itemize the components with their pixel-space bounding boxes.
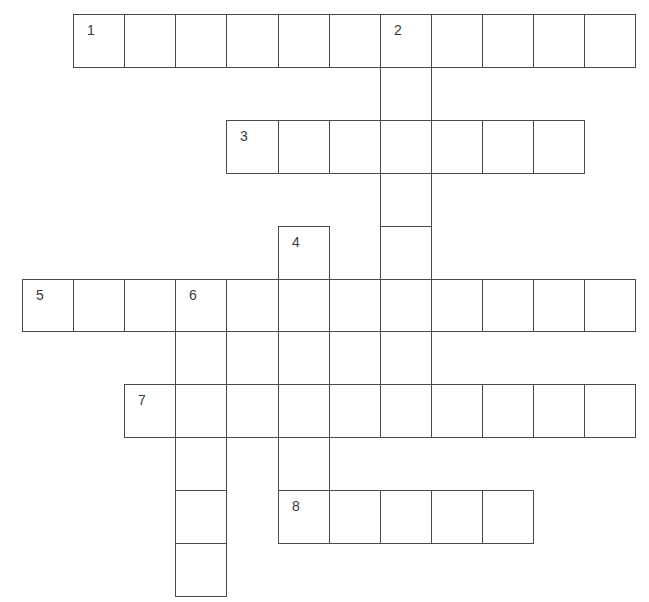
crossword-cell[interactable] — [380, 490, 432, 544]
crossword-cell[interactable] — [329, 384, 381, 438]
crossword-cell[interactable] — [380, 173, 432, 227]
crossword-cell[interactable] — [482, 279, 534, 332]
clue-number: 6 — [189, 288, 197, 302]
crossword-cell[interactable] — [380, 279, 432, 332]
clue-number: 1 — [87, 23, 95, 37]
crossword-cell[interactable] — [278, 331, 330, 385]
crossword-cell[interactable] — [175, 437, 227, 491]
crossword-cell[interactable]: 8 — [278, 490, 330, 544]
crossword-cell[interactable] — [380, 384, 432, 438]
crossword-cell[interactable] — [329, 490, 381, 544]
clue-number: 7 — [138, 393, 146, 407]
crossword-cell[interactable] — [533, 384, 585, 438]
crossword-cell[interactable] — [482, 490, 534, 544]
crossword-cell[interactable] — [329, 120, 381, 174]
crossword-cell[interactable]: 1 — [73, 14, 125, 68]
clue-number: 4 — [292, 235, 300, 249]
crossword-cell[interactable] — [175, 14, 227, 68]
crossword-cell[interactable] — [175, 543, 227, 597]
crossword-cell[interactable] — [329, 331, 381, 385]
crossword-cell[interactable] — [584, 14, 636, 68]
crossword-cell[interactable] — [533, 14, 585, 68]
crossword-cell[interactable] — [73, 279, 125, 332]
crossword-cell[interactable] — [278, 120, 330, 174]
crossword-cell[interactable] — [380, 67, 432, 121]
crossword-cell[interactable] — [482, 14, 534, 68]
crossword-cell[interactable] — [226, 384, 279, 438]
crossword-cell[interactable] — [431, 490, 483, 544]
crossword-cell[interactable] — [584, 279, 636, 332]
crossword-cell[interactable] — [431, 279, 483, 332]
crossword-cell[interactable] — [431, 384, 483, 438]
crossword-cell[interactable] — [431, 120, 483, 174]
crossword-cell[interactable]: 3 — [226, 120, 279, 174]
crossword-cell[interactable]: 4 — [278, 226, 330, 280]
crossword-cell[interactable] — [380, 226, 432, 280]
crossword-cell[interactable] — [584, 384, 636, 438]
crossword-cell[interactable] — [431, 14, 483, 68]
clue-number: 8 — [292, 499, 300, 513]
crossword-cell[interactable] — [175, 490, 227, 544]
crossword-cell[interactable]: 5 — [22, 279, 74, 332]
crossword-cell[interactable] — [278, 279, 330, 332]
crossword-cell[interactable] — [226, 331, 279, 385]
crossword-cell[interactable] — [278, 14, 330, 68]
crossword-cell[interactable] — [278, 384, 330, 438]
crossword-cell[interactable] — [278, 437, 330, 491]
crossword-cell[interactable] — [175, 331, 227, 385]
crossword-cell[interactable] — [226, 279, 279, 332]
crossword-cell[interactable] — [533, 279, 585, 332]
crossword-cell[interactable] — [124, 279, 176, 332]
crossword-cell[interactable] — [482, 120, 534, 174]
crossword-grid: 12345678 — [0, 0, 649, 602]
crossword-cell[interactable] — [226, 14, 279, 68]
clue-number: 3 — [240, 129, 248, 143]
crossword-cell[interactable] — [380, 120, 432, 174]
crossword-cell[interactable] — [329, 279, 381, 332]
clue-number: 5 — [36, 288, 44, 302]
crossword-cell[interactable] — [482, 384, 534, 438]
crossword-cell[interactable] — [533, 120, 585, 174]
clue-number: 2 — [394, 23, 402, 37]
crossword-cell[interactable] — [175, 384, 227, 438]
crossword-cell[interactable]: 7 — [124, 384, 176, 438]
crossword-cell[interactable]: 2 — [380, 14, 432, 68]
crossword-cell[interactable] — [329, 14, 381, 68]
crossword-cell[interactable] — [380, 331, 432, 385]
crossword-cell[interactable] — [124, 14, 176, 68]
crossword-cell[interactable]: 6 — [175, 279, 227, 332]
